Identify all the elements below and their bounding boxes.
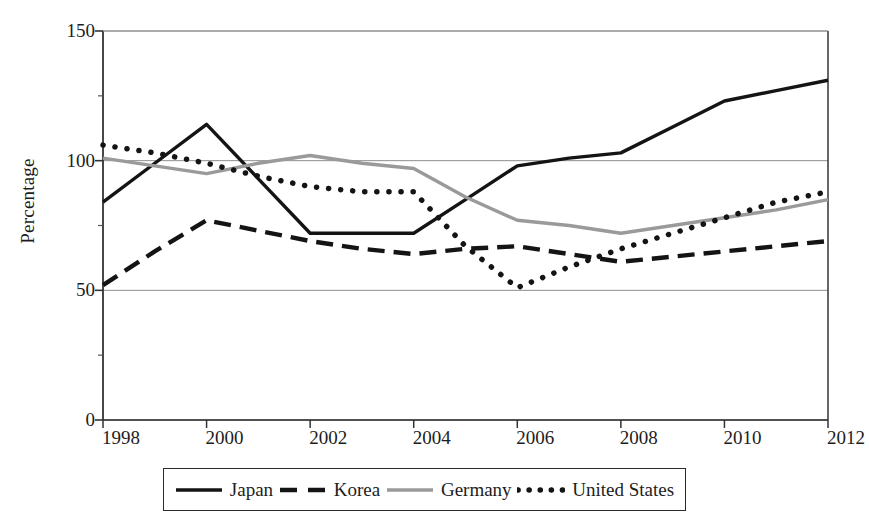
axis-lines — [103, 31, 828, 420]
x-tick-label: 2010 — [707, 427, 777, 448]
legend-item-germany[interactable]: Germany — [386, 480, 512, 499]
legend-label: Germany — [441, 480, 512, 499]
legend-swatch-solid — [386, 483, 434, 497]
legend-swatch-dashed — [279, 483, 327, 497]
legend-item-korea[interactable]: Korea — [279, 480, 380, 499]
legend-label: United States — [572, 480, 674, 499]
data-series-layer — [103, 80, 828, 287]
axis-ticks — [95, 31, 828, 428]
x-tick-label: 2004 — [397, 427, 467, 448]
x-tick-label: 2006 — [500, 427, 570, 448]
legend-label: Japan — [230, 480, 273, 499]
gridlines — [103, 31, 828, 420]
x-tick-label: 2012 — [811, 427, 869, 448]
series-line-korea — [103, 220, 828, 285]
chart-legend: JapanKoreaGermanyUnited States — [163, 468, 686, 511]
legend-item-japan[interactable]: Japan — [175, 480, 273, 499]
x-tick-label: 2002 — [293, 427, 363, 448]
series-line-japan — [103, 80, 828, 233]
x-tick-label: 2008 — [604, 427, 674, 448]
legend-item-united-states[interactable]: United States — [517, 480, 674, 499]
series-line-germany — [103, 155, 828, 233]
x-tick-label: 1998 — [86, 427, 156, 448]
series-line-united-states — [103, 145, 828, 288]
legend-swatch-dotted — [517, 483, 565, 497]
legend-swatch-solid — [175, 483, 223, 497]
legend-label: Korea — [334, 480, 380, 499]
x-tick-label: 2000 — [190, 427, 260, 448]
